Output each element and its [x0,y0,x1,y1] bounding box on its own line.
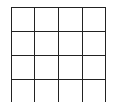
grid-line-horizontal [11,31,106,32]
grid-4x4 [11,7,105,102]
grid-line-horizontal [11,79,106,80]
grid-line-horizontal [11,7,106,8]
grid-line-horizontal [11,55,106,56]
